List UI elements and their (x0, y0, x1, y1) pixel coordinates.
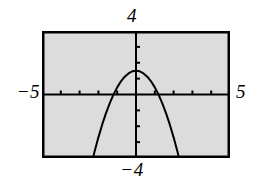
y-min-label: −4 (0, 160, 264, 179)
graphing-calculator-figure: 4 −5 5 −4 (0, 0, 264, 183)
x-max-label: 5 (236, 82, 260, 101)
plot-viewport (42, 31, 230, 158)
plot-canvas (42, 31, 230, 158)
x-min-label: −5 (8, 82, 40, 101)
y-max-label: 4 (0, 6, 264, 25)
